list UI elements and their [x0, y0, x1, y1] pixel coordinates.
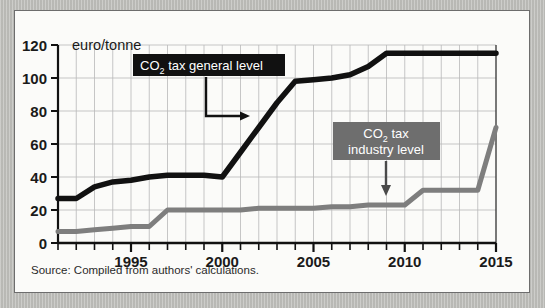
annotation-general-level: CO2 tax general level [133, 54, 285, 121]
industry-level-text-line2: industry level [348, 142, 424, 157]
line-chart-svg: 020406080100120 19952000200520102015 eur… [0, 0, 545, 308]
industry-level-arrow-head [381, 185, 391, 196]
general-label-suffix: tax general level [165, 58, 263, 73]
y-tick-label: 80 [30, 103, 47, 120]
figure-container: 020406080100120 19952000200520102015 eur… [0, 0, 545, 308]
y-tick-label: 20 [30, 202, 47, 219]
general-level-arrow-line [206, 77, 240, 116]
y-tick-label: 40 [30, 169, 47, 186]
y-tick-label: 100 [22, 70, 47, 87]
x-tick-label: 2005 [297, 253, 330, 270]
y-axis-unit-label: euro/tonne [72, 37, 141, 53]
industry-label-suffix: tax [388, 126, 409, 141]
x-tick-label: 2015 [479, 253, 512, 270]
general-label-prefix: CO [140, 58, 160, 73]
y-tick-label: 60 [30, 136, 47, 153]
general-level-text: CO2 tax general level [140, 58, 263, 76]
industry-label-prefix: CO [363, 126, 383, 141]
annotation-industry-level: CO2 tax industry level [333, 122, 440, 196]
x-tick-label: 2010 [388, 253, 421, 270]
source-note: Source: Compiled from authors' calculati… [31, 264, 259, 276]
y-axis-ticks: 020406080100120 [22, 37, 58, 252]
y-tick-label: 120 [22, 37, 47, 54]
general-level-arrow-head [240, 112, 250, 121]
plot-area: 020406080100120 19952000200520102015 eur… [0, 0, 545, 308]
y-tick-label: 0 [39, 235, 47, 252]
